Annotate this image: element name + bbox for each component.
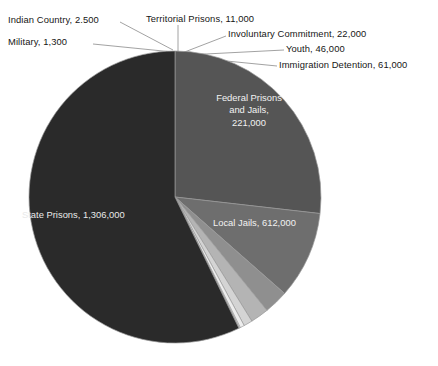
pie-chart: Indian Country, 2.500 Military, 1,300 Te… bbox=[0, 0, 438, 366]
slice-label-federal-prisons: Federal Prisons and Jails, 221,000 bbox=[203, 92, 295, 129]
slice-label-involuntary-commitment: Involuntary Commitment, 22,000 bbox=[228, 28, 366, 40]
federal-label-line-3: 221,000 bbox=[203, 117, 295, 129]
leader-line-involuntary-commitment bbox=[182, 36, 226, 53]
federal-label-line-2: and Jails, bbox=[203, 104, 295, 116]
slice-label-local-jails: Local Jails, 612,000 bbox=[213, 217, 296, 229]
pie-slice-local-jails bbox=[175, 51, 321, 214]
federal-label-line-1: Federal Prisons bbox=[203, 92, 295, 104]
slice-label-state-prisons: State Prisons, 1,306,000 bbox=[22, 209, 125, 221]
leader-line-indian-country bbox=[120, 22, 173, 50]
slice-label-youth: Youth, 46,000 bbox=[286, 43, 345, 55]
slice-label-military: Military, 1,300 bbox=[8, 36, 67, 48]
slice-label-immigration-detention: Immigration Detention, 61,000 bbox=[279, 59, 407, 71]
pie-chart-canvas bbox=[0, 0, 438, 366]
slice-label-territorial-prisons: Territorial Prisons, 11,000 bbox=[146, 13, 254, 25]
leader-line-military bbox=[93, 44, 173, 52]
slice-label-indian-country: Indian Country, 2.500 bbox=[8, 14, 99, 26]
